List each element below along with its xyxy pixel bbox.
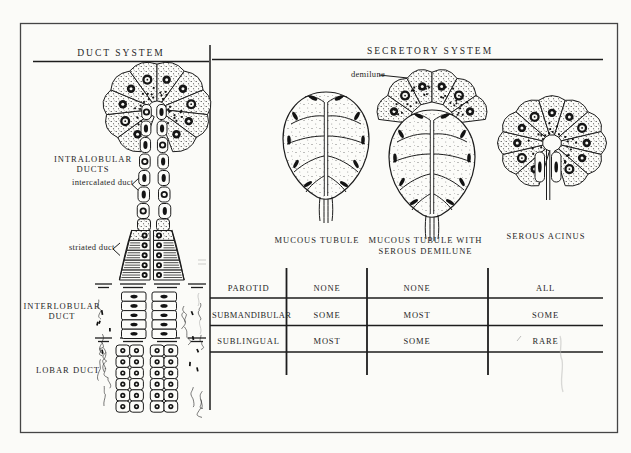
table-cell: MOST	[288, 336, 366, 346]
table-cell: SOME	[368, 336, 466, 346]
table-cell: ALL	[489, 283, 602, 293]
striated-duct-label: striated duct	[69, 242, 115, 252]
mucous-tubule-caption: MUCOUS TUBULE	[256, 235, 378, 245]
table-row-label-submandibular: SUBMANDIBULAR	[212, 310, 285, 320]
frame-and-grid-lines	[21, 24, 618, 433]
intralobular-line1: INTRALOBULAR	[46, 154, 140, 164]
table-cell: SOME	[489, 310, 602, 320]
mucous-tubule-demilune-caption: MUCOUS TUBULE WITH SEROUS DEMILUNE	[363, 235, 488, 256]
demilune-annotation: demilune	[351, 69, 385, 79]
serous-acinus-illustration	[498, 96, 607, 200]
duct-system-header: DUCT SYSTEM	[33, 48, 209, 58]
secretory-system-header: SECRETORY SYSTEM	[330, 46, 530, 56]
interlobular-duct-label: INTERLOBULAR DUCT	[22, 301, 102, 321]
lobar-duct-label: LOBAR DUCT	[28, 365, 108, 375]
duct-system-illustration	[95, 62, 211, 417]
table-cell: MOST	[368, 310, 466, 320]
intralobular-line2: DUCTS	[46, 164, 140, 174]
table-row-label-sublingual: SUBLINGUAL	[212, 336, 285, 346]
interlobular-line1: INTERLOBULAR	[22, 301, 102, 311]
table-cell: SOME	[288, 310, 366, 320]
table-cell: NONE	[368, 283, 466, 293]
table-row-label-parotid: PAROTID	[212, 283, 285, 293]
caption-line1: MUCOUS TUBULE WITH	[363, 235, 488, 246]
caption-line2: SEROUS DEMILUNE	[363, 246, 488, 257]
figure-page: DUCT SYSTEM SECRETORY SYSTEM INTRALOBULA…	[0, 0, 631, 453]
mucous-tubule-demilune-illustration	[377, 70, 487, 241]
mucous-tubule-illustration	[283, 92, 369, 223]
intralobular-ducts-label: INTRALOBULAR DUCTS	[46, 154, 140, 174]
serous-acinus-caption: SEROUS ACINUS	[485, 231, 607, 241]
table-cell: NONE	[288, 283, 366, 293]
interlobular-line2: DUCT	[22, 311, 102, 321]
table-cell: RARE	[489, 336, 602, 346]
intercalated-duct-label: intercalated duct	[72, 177, 134, 187]
figure-artwork	[0, 0, 631, 453]
